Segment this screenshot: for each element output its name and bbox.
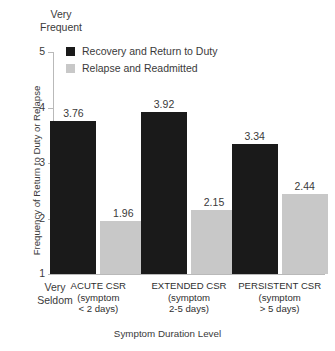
- legend-item: Relapse and Readmitted: [66, 61, 217, 75]
- bar-value-label: 2.44: [276, 180, 334, 192]
- y-axis-tick-label: 3: [27, 156, 45, 168]
- x-axis-line: [53, 274, 325, 275]
- chart-legend: Recovery and Return to DutyRelapse and R…: [66, 44, 217, 78]
- y-axis-tick: [48, 274, 53, 275]
- bar-value-label: 3.92: [135, 98, 193, 110]
- bar: [282, 194, 328, 274]
- x-axis-category-label: EXTENDED CSR (symptom 2-5 days): [144, 280, 235, 315]
- y-axis-tick-label: 4: [27, 101, 45, 113]
- legend-swatch-icon: [66, 47, 75, 56]
- bar: [50, 121, 96, 274]
- bar: [232, 144, 278, 274]
- x-axis-title: Symptom Duration Level: [0, 328, 335, 339]
- y-axis-tick-label: 1: [27, 267, 45, 279]
- legend-label: Relapse and Readmitted: [82, 62, 198, 74]
- y-axis-tick-label: 5: [27, 45, 45, 57]
- plot-area: 12345 3.761.963.922.153.342.44 ACUTE CSR…: [53, 52, 325, 274]
- y-axis-tick: [48, 52, 53, 53]
- bar: [191, 210, 237, 274]
- legend-item: Recovery and Return to Duty: [66, 44, 217, 58]
- y-axis-tick-label: 2: [27, 212, 45, 224]
- bar: [141, 112, 187, 274]
- x-axis-category-label: PERSISTENT CSR (symptom > 5 days): [234, 280, 325, 315]
- bar: [100, 221, 146, 274]
- y-axis-top-cap-label: Very Frequent: [26, 8, 96, 33]
- bar-value-label: 3.76: [44, 107, 102, 119]
- legend-swatch-icon: [66, 64, 75, 73]
- legend-label: Recovery and Return to Duty: [82, 45, 217, 57]
- x-axis-category-label: ACUTE CSR (symptom < 2 days): [53, 280, 144, 315]
- bar-chart: Very Frequent Very Seldom Frequency of R…: [0, 0, 335, 351]
- bar-value-label: 3.34: [226, 130, 284, 142]
- y-axis-title: Frequency of Return to Duty or Relapse: [31, 61, 42, 281]
